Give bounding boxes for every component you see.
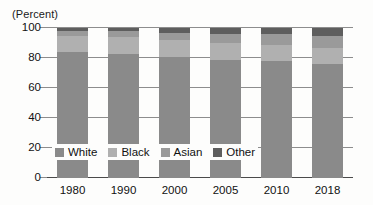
y-tick-mark-100 — [40, 27, 47, 28]
bar-stack — [261, 28, 292, 178]
legend-item-other[interactable]: Other — [213, 146, 255, 158]
bar-segment-black[interactable] — [312, 48, 343, 65]
legend-item-asian[interactable]: Asian — [161, 146, 203, 158]
bar-segment-other[interactable] — [261, 28, 292, 34]
chart-legend: WhiteBlackAsianOther — [52, 144, 258, 160]
y-tick-mark-60 — [40, 87, 47, 88]
y-axis-tick-label: 20 — [28, 141, 41, 153]
y-tick-mark-20 — [40, 147, 47, 148]
legend-label: Other — [226, 146, 255, 158]
bar-segment-asian[interactable] — [210, 34, 241, 43]
bar-segment-black[interactable] — [108, 37, 139, 54]
legend-label: Black — [121, 146, 149, 158]
y-axis-tick-label: 60 — [28, 81, 41, 93]
bar-segment-other[interactable] — [312, 28, 343, 36]
bar-segment-other[interactable] — [57, 28, 88, 31]
bar-segment-white[interactable] — [312, 64, 343, 178]
legend-item-white[interactable]: White — [55, 146, 97, 158]
x-axis-tick-label: 2010 — [264, 184, 290, 196]
x-axis-tick-label: 1980 — [60, 184, 86, 196]
bar-segment-other[interactable] — [108, 28, 139, 31]
legend-swatch-icon — [108, 148, 117, 157]
bar-segment-black[interactable] — [210, 43, 241, 60]
stacked-bar-chart: (Percent) 020406080100 19801990200020052… — [0, 0, 373, 205]
bar-segment-asian[interactable] — [57, 31, 88, 36]
bar-segment-black[interactable] — [159, 40, 190, 57]
x-axis-tick-label: 2018 — [315, 184, 341, 196]
legend-swatch-icon — [161, 148, 170, 157]
y-axis-tick-label: 40 — [28, 111, 41, 123]
bar-segment-black[interactable] — [57, 36, 88, 53]
y-tick-mark-80 — [40, 57, 47, 58]
y-axis-tick-label: 80 — [28, 51, 41, 63]
legend-swatch-icon — [213, 148, 222, 157]
bar-segment-asian[interactable] — [108, 31, 139, 37]
y-axis-unit-label: (Percent) — [12, 8, 58, 20]
bar-segment-asian[interactable] — [159, 33, 190, 41]
bar-segment-black[interactable] — [261, 45, 292, 62]
bar-segment-white[interactable] — [210, 60, 241, 179]
x-axis-tick-label: 2000 — [162, 184, 188, 196]
bar-segment-other[interactable] — [210, 28, 241, 34]
bar-column[interactable]: 2010 — [261, 28, 292, 178]
x-axis-tick-label: 2005 — [213, 184, 239, 196]
legend-label: White — [68, 146, 97, 158]
y-tick-mark-0 — [40, 177, 47, 178]
bar-segment-white[interactable] — [261, 61, 292, 178]
legend-item-black[interactable]: Black — [108, 146, 149, 158]
y-axis-tick-label: 100 — [22, 21, 41, 33]
bar-column[interactable]: 2018 — [312, 28, 343, 178]
y-tick-mark-40 — [40, 117, 47, 118]
bar-segment-asian[interactable] — [261, 34, 292, 45]
bar-stack — [312, 28, 343, 178]
legend-label: Asian — [174, 146, 203, 158]
y-axis-tick-label: 0 — [35, 171, 41, 183]
bar-segment-other[interactable] — [159, 28, 190, 33]
bar-segment-asian[interactable] — [312, 36, 343, 48]
legend-swatch-icon — [55, 148, 64, 157]
x-axis-tick-label: 1990 — [111, 184, 137, 196]
